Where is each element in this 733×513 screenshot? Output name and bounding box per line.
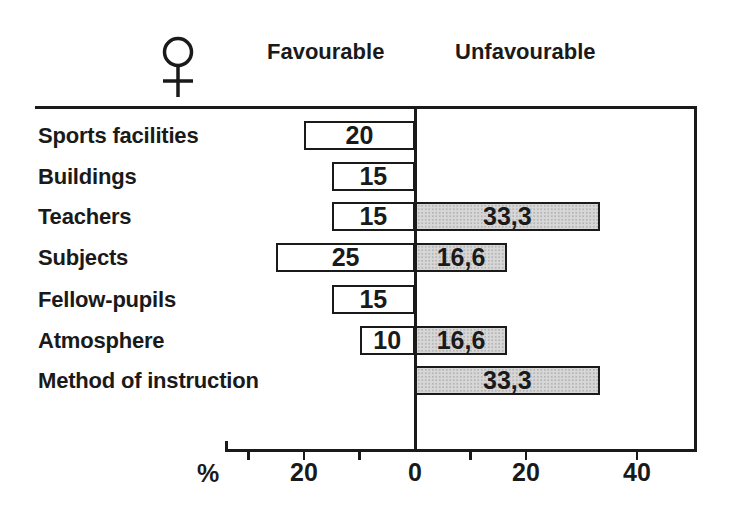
top-rule-line (35, 106, 697, 109)
bar-value-label: 25 (332, 245, 360, 270)
right-border-line (694, 106, 697, 452)
bar-value-label: 15 (359, 204, 387, 229)
unfavourable-bar: 33,3 (415, 202, 600, 231)
zero-baseline (414, 106, 417, 451)
x-axis-label-right-20: 20 (501, 460, 551, 485)
favourable-bar: 15 (332, 202, 415, 231)
favourable-bar: 15 (332, 285, 415, 314)
bar-value-label: 20 (346, 123, 374, 148)
unfavourable-bar: 33,3 (415, 366, 600, 395)
axis-left-end-tick (225, 441, 228, 452)
unfavourable-column-header: Unfavourable (455, 40, 596, 64)
x-axis-label-0: 0 (390, 460, 440, 485)
category-label-subjects: Subjects (38, 243, 128, 272)
category-label-fellow-pupils: Fellow-pupils (38, 285, 176, 314)
bar-value-label: 15 (359, 287, 387, 312)
bar-value-label: 10 (373, 328, 401, 353)
category-label-atmosphere: Atmosphere (38, 326, 164, 355)
diverging-bar-chart-figure: Favourable Unfavourable Sports facilitie… (0, 0, 733, 513)
bar-value-label: 16,6 (437, 245, 486, 270)
unfavourable-bar: 16,6 (415, 243, 507, 272)
favourable-bar: 20 (304, 121, 415, 150)
category-label-sports-facilities: Sports facilities (38, 121, 198, 150)
favourable-column-header: Favourable (267, 40, 384, 64)
bar-value-label: 15 (359, 164, 387, 189)
percent-sign-label: % (193, 461, 223, 486)
category-label-method-of-instruction: Method of instruction (38, 366, 259, 395)
axis-tick (469, 450, 472, 460)
bar-value-label: 16,6 (437, 328, 486, 353)
category-label-teachers: Teachers (38, 202, 131, 231)
x-axis-line (225, 449, 697, 452)
x-axis-label-right-40: 40 (612, 460, 662, 485)
unfavourable-bar: 16,6 (415, 326, 507, 355)
favourable-bar: 10 (360, 326, 416, 355)
category-label-buildings: Buildings (38, 162, 136, 191)
favourable-bar: 25 (276, 243, 415, 272)
bar-value-label: 33,3 (483, 204, 532, 229)
bar-value-label: 33,3 (483, 368, 532, 393)
x-axis-label-left-20: 20 (279, 460, 329, 485)
axis-tick (247, 450, 250, 460)
female-symbol-icon (156, 26, 200, 100)
axis-tick (358, 450, 361, 460)
favourable-bar: 15 (332, 162, 415, 191)
